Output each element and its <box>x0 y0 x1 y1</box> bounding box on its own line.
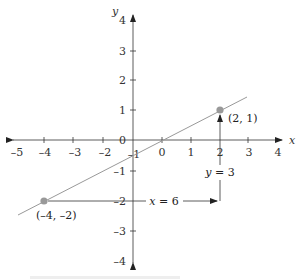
point-label-2-1: (2, 1) <box>228 112 258 125</box>
y-tick-label: 4 <box>119 14 126 27</box>
y-tick-label: –2 <box>114 195 127 208</box>
x-tick-label: –1 <box>128 148 141 161</box>
y-axis-label: y <box>111 5 119 18</box>
plotted-line <box>18 97 247 215</box>
y-tick-label: –1 <box>114 165 127 178</box>
x-tick-label: –3 <box>69 146 82 159</box>
point-label-neg4-neg2: (–4, –2) <box>36 209 77 222</box>
x-tick-label: –4 <box>39 146 52 159</box>
x-tick-label: 3 <box>246 146 253 159</box>
x-tick-label: –2 <box>99 146 112 159</box>
coordinate-plane: –5 –4 –3 –2 –1 0 1 2 3 4 4 3 2 1 0 –1 –2… <box>0 0 303 279</box>
y-tick-label: 0 <box>119 134 126 147</box>
run-label: x = 6 <box>149 195 178 208</box>
y-tick-label: 1 <box>119 104 126 117</box>
y-tick-label: –3 <box>114 225 127 238</box>
y-tick-label: 2 <box>119 74 126 87</box>
y-tick-label: –4 <box>114 255 127 268</box>
x-axis-label: x <box>289 134 296 147</box>
point-neg4-neg2 <box>40 197 47 204</box>
y-tick-label: 3 <box>119 45 126 58</box>
point-2-1 <box>216 106 223 113</box>
x-tick-label: –5 <box>11 146 24 159</box>
rise-label: y = 3 <box>204 166 234 179</box>
x-tick-label: 0 <box>159 146 166 159</box>
x-tick-label: 4 <box>275 146 282 159</box>
x-tick-label: 1 <box>188 146 195 159</box>
